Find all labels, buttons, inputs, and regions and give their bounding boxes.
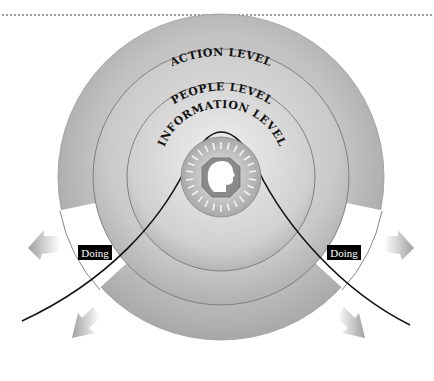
doing-label-left: Doing — [78, 245, 112, 260]
center-medallion — [181, 137, 261, 217]
arrow-lower-left-icon — [72, 307, 100, 338]
arrow-lower-right-icon — [337, 307, 365, 338]
arrow-upper-right-icon — [384, 230, 414, 260]
levels-diagram: ACTION LEVEL PEOPLE LEVEL INFORMATION LE… — [0, 0, 434, 381]
arrow-upper-left-icon — [28, 230, 60, 260]
doing-label-right: Doing — [327, 245, 361, 260]
svg-text:Doing: Doing — [81, 247, 109, 259]
svg-text:Doing: Doing — [330, 247, 358, 259]
